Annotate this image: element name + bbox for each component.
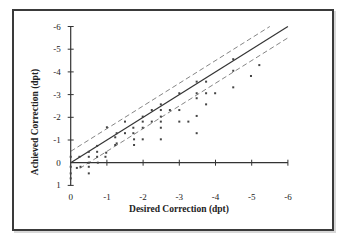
data-point [160, 138, 162, 140]
data-point [133, 144, 135, 146]
data-point [79, 166, 81, 168]
axes [68, 27, 288, 186]
y-tick-label: -1 [53, 135, 61, 145]
data-point [132, 132, 134, 134]
y-tick-label: 1 [56, 180, 61, 190]
data-point [70, 177, 72, 179]
data-point [88, 162, 90, 164]
data-point [250, 75, 252, 77]
data-point [132, 127, 134, 129]
reference-lines [71, 27, 288, 169]
data-point [169, 109, 171, 111]
data-point [187, 121, 189, 123]
data-point [160, 121, 162, 123]
data-point [133, 138, 135, 140]
data-point [116, 142, 118, 144]
data-point [70, 172, 72, 174]
data-point [196, 97, 198, 99]
tolerance-line [80, 38, 288, 169]
data-point [196, 132, 198, 134]
data-point [160, 116, 162, 118]
y-tick-label: 0 [56, 158, 61, 168]
data-point [196, 115, 198, 117]
data-point [196, 81, 198, 83]
x-tick-label: -2 [139, 192, 147, 202]
data-point [151, 121, 153, 123]
data-point [142, 138, 144, 140]
x-axis-title: Desired Correction (dpt) [129, 204, 229, 215]
data-point [151, 109, 153, 111]
data-point [96, 156, 98, 158]
y-tick-label: -4 [53, 67, 61, 77]
data-point [76, 167, 78, 169]
x-tick-label: -3 [176, 192, 184, 202]
data-point [214, 92, 216, 94]
data-point [97, 162, 99, 164]
data-point [88, 172, 90, 174]
y-tick-labels: 10-1-2-3-4-5-6 [53, 22, 61, 191]
data-point [178, 92, 180, 94]
data-point [232, 58, 234, 60]
data-point [142, 127, 144, 129]
data-point [258, 64, 260, 66]
data-point [160, 103, 162, 105]
y-tick-label: -3 [53, 90, 61, 100]
data-point [205, 92, 207, 94]
data-point [196, 92, 198, 94]
x-tick-label: -4 [212, 192, 220, 202]
tolerance-line [71, 27, 270, 152]
y-tick-label: -2 [53, 112, 61, 122]
x-tick-label: -1 [103, 192, 111, 202]
data-point [70, 166, 72, 168]
data-point [205, 81, 207, 83]
y-tick-label: -5 [53, 44, 61, 54]
data-point [124, 132, 126, 134]
data-point [78, 156, 80, 158]
data-point [124, 121, 126, 123]
data-point [142, 116, 144, 118]
data-point [232, 86, 234, 88]
data-point [116, 132, 118, 134]
identity-line [71, 27, 288, 163]
data-point [96, 151, 98, 153]
data-point [105, 152, 107, 154]
data-point [114, 136, 116, 138]
data-point [70, 156, 72, 158]
data-point [178, 121, 180, 123]
data-point [88, 166, 90, 168]
x-tick-label: 0 [68, 192, 73, 202]
data-points [70, 58, 261, 179]
y-tick-label: -6 [53, 22, 61, 32]
x-tick-labels: 0-1-2-3-4-5-6 [68, 192, 292, 202]
data-point [106, 126, 108, 128]
data-point [232, 70, 234, 72]
scatter-chart: 0-1-2-3-4-5-6 10-1-2-3-4-5-6 Desired Cor… [0, 0, 344, 241]
data-point [160, 127, 162, 129]
data-point [104, 156, 106, 158]
data-point [96, 145, 98, 147]
x-tick-label: -5 [248, 192, 256, 202]
data-point [205, 103, 207, 105]
data-point [142, 121, 144, 123]
data-point [88, 151, 90, 153]
data-point [178, 109, 180, 111]
data-point [160, 109, 162, 111]
x-tick-label: -6 [284, 192, 292, 202]
data-point [88, 156, 90, 158]
y-axis-title: Achieved Correction (dpt) [30, 69, 41, 175]
